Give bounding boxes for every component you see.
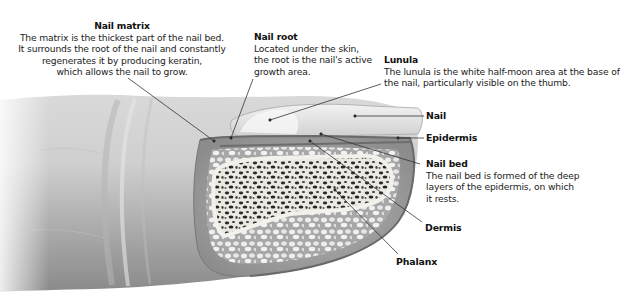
nail-matrix-title: Nail matrix [18,20,226,32]
nail-root-title: Nail root [254,31,384,43]
label-nail-root: Nail root Located under the skin, the ro… [254,31,384,77]
nail-bed-desc-3: it rests. [426,193,616,205]
label-lunula: Lunula The lunula is the white half-moon… [384,54,620,89]
lunula-title: Lunula [384,54,620,66]
nail-matrix-desc-1: The matrix is the thickest part of the n… [18,32,226,44]
nail-anatomy-diagram: Nail matrix The matrix is the thickest p… [0,0,621,302]
nail-matrix-desc-3: regenerates it by producing keratin, [18,55,226,67]
nail-bed-title: Nail bed [426,158,616,170]
nail-root-desc-2: the root is the nail's active [254,54,384,66]
label-phalanx: Phalanx [396,256,437,268]
label-nail: Nail [426,110,446,122]
nail-bed-desc-1: The nail bed is formed of the deep [426,170,616,182]
nail-root-desc-3: growth area. [254,66,384,78]
nail-bed-desc-2: layers of the epidermis, on which [426,181,616,193]
nail-matrix-desc-4: which allows the nail to grow. [18,66,226,78]
label-dermis: Dermis [425,222,461,234]
lunula-desc-2: the nail, particularly visible on the th… [384,77,620,89]
label-nail-bed: Nail bed The nail bed is formed of the d… [426,158,616,204]
nail-root-desc-1: Located under the skin, [254,43,384,55]
label-epidermis: Epidermis [426,132,477,144]
label-nail-matrix: Nail matrix The matrix is the thickest p… [18,20,226,78]
lunula-desc-1: The lunula is the white half-moon area a… [384,66,620,78]
nail-matrix-desc-2: It surrounds the root of the nail and co… [18,43,226,55]
